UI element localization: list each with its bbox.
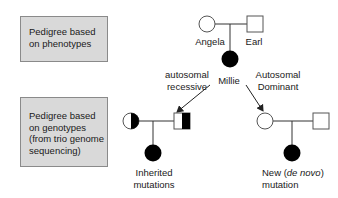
inherited-mutations-caption: Inherited mutations	[133, 167, 174, 190]
de-novo-caption-line-2: mutation	[262, 179, 324, 191]
earl-male-unaffected-icon	[247, 16, 263, 32]
inherited-caption-line-1: Inherited	[133, 167, 174, 179]
mother-carrier-half-filled-circle-icon	[123, 113, 139, 129]
caption-italic-de-novo: de novo	[287, 167, 321, 178]
dominant-label-line-1: Autosomal	[256, 69, 301, 81]
mother-unaffected-circle-icon	[257, 113, 273, 129]
millie-female-affected-icon	[222, 51, 239, 68]
caption-prefix: New (	[262, 167, 287, 178]
recessive-label-line-2: recessive	[165, 81, 209, 93]
father-unaffected-square-icon	[313, 113, 329, 129]
angela-label: Angela	[195, 36, 225, 48]
earl-label: Earl	[246, 36, 263, 48]
caption-suffix: )	[321, 167, 324, 178]
de-novo-caption-line-1: New (de novo)	[262, 167, 324, 179]
child-affected-circle-icon	[284, 145, 301, 162]
millie-label: Millie	[218, 75, 240, 87]
child-affected-circle-icon	[145, 145, 162, 162]
autosomal-dominant-label: Autosomal Dominant	[256, 69, 301, 92]
de-novo-mutation-caption: New (de novo) mutation	[262, 167, 324, 190]
autosomal-recessive-label: autosomal recessive	[165, 69, 209, 92]
angela-female-unaffected-icon	[199, 16, 215, 32]
father-carrier-half-filled-square-icon	[174, 113, 190, 129]
bottom-left-pedigree	[123, 113, 190, 162]
inherited-caption-line-2: mutations	[133, 179, 174, 191]
bottom-right-pedigree	[257, 113, 329, 162]
recessive-label-line-1: autosomal	[165, 69, 209, 81]
dominant-label-line-2: Dominant	[256, 81, 301, 93]
